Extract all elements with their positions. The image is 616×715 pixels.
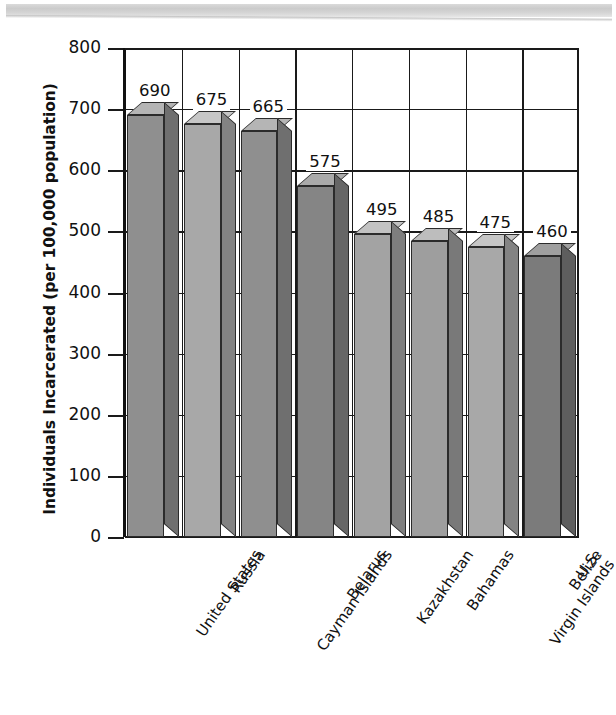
y-tick-mark [108, 109, 124, 111]
bar-front-face [127, 115, 164, 537]
bar-value-label: 485 [420, 208, 458, 227]
y-tick-mark [108, 170, 124, 172]
bar-front-face [297, 186, 334, 537]
bar-side-face [391, 221, 406, 537]
y-tick-label: 400 [43, 284, 101, 301]
bar-value-label: 575 [306, 153, 344, 172]
y-tick-mark [108, 537, 124, 539]
bar-side-face [504, 234, 519, 537]
bar-value-label: 475 [477, 214, 515, 233]
bar-front-face [241, 131, 278, 537]
bar-side-face [448, 228, 463, 537]
bar-value-label: 495 [363, 201, 401, 220]
bar-side-face [334, 173, 349, 537]
y-tick-mark [108, 476, 124, 478]
incarceration-bar-chart-figure: Individuals Incarcerated (per 100,000 po… [0, 0, 616, 715]
bar [127, 115, 164, 537]
y-tick-label: 800 [43, 39, 101, 56]
y-tick-label: 700 [43, 100, 101, 117]
bar [411, 241, 448, 537]
bar-side-face [277, 118, 292, 537]
bar-value-label: 690 [136, 82, 174, 101]
y-tick-label: 600 [43, 161, 101, 178]
y-tick-label: 300 [43, 345, 101, 362]
bar [524, 256, 561, 537]
bar-front-face [354, 234, 391, 537]
bar-value-label: 675 [193, 91, 231, 110]
bar [184, 124, 221, 537]
y-tick-mark [108, 293, 124, 295]
scan-edge-artifact [6, 4, 612, 17]
bar-side-face [164, 102, 179, 537]
bar-front-face [468, 247, 505, 537]
bar-front-face [411, 241, 448, 537]
bar [241, 131, 278, 537]
x-category-label: Kazakhstan [414, 547, 477, 627]
bar-front-face [524, 256, 561, 537]
y-tick-mark [108, 48, 124, 50]
y-tick-label: 200 [43, 406, 101, 423]
bar-front-face [184, 124, 221, 537]
bar-side-face [561, 243, 576, 537]
bar [468, 247, 505, 537]
bar-side-face [221, 111, 236, 537]
x-category-label: U.S. Virgin Islands [533, 547, 616, 649]
y-tick-mark [108, 415, 124, 417]
y-tick-mark [108, 354, 124, 356]
bar [354, 234, 391, 537]
plot-area [125, 48, 579, 537]
y-tick-label: 100 [43, 467, 101, 484]
y-tick-label: 500 [43, 222, 101, 239]
y-tick-mark [108, 231, 124, 233]
bar-value-label: 665 [250, 98, 288, 117]
bar [297, 186, 334, 537]
y-tick-label: 0 [43, 528, 101, 545]
bar-value-label: 460 [533, 223, 571, 242]
